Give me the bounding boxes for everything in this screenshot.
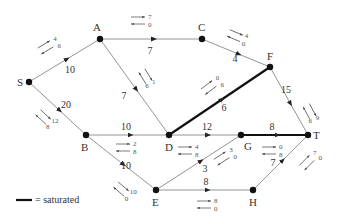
backward-arrow-icon [114, 187, 125, 196]
legend-label: = saturated [35, 194, 79, 205]
edge-capacity: 12 [202, 121, 212, 132]
residual-forward: 7 [148, 13, 152, 21]
node-b: B [81, 132, 89, 153]
node-dot [238, 132, 244, 138]
node-label: F [267, 50, 273, 62]
residual-forward: 8 [214, 197, 218, 205]
node-label: S [17, 76, 23, 88]
residual-annotation: 30 [212, 144, 241, 171]
residual-backward: 8 [195, 151, 199, 159]
edge-capacity: 10 [121, 160, 131, 171]
residual-forward: 2 [133, 140, 137, 148]
backward-arrow-icon [227, 36, 240, 41]
node-s: S [17, 76, 32, 88]
node-label: H [249, 196, 257, 208]
edge-e-h: 8 [156, 176, 253, 190]
forward-arrow-icon [40, 110, 50, 120]
backward-arrow-icon [205, 86, 216, 94]
edge-capacity: 15 [281, 84, 291, 95]
edge-line [169, 67, 270, 135]
node-dot [250, 187, 256, 193]
node-dot [153, 187, 159, 193]
residual-backward: 0 [125, 195, 129, 203]
residual-backward: 0 [319, 154, 323, 162]
edge-line [29, 39, 100, 82]
edge-s-a: 10 [29, 39, 100, 82]
edge-capacity: 8 [270, 121, 275, 132]
edge-a-d: 7 [100, 39, 169, 135]
edge-s-b: 20 [29, 82, 86, 135]
edge-f-t: 15 [270, 67, 308, 135]
edge-line [29, 82, 86, 135]
node-dot [267, 64, 273, 70]
node-label: A [93, 21, 101, 33]
residual-forward: 9 [316, 114, 320, 122]
residual-backward: 6 [57, 42, 61, 50]
residual-forward: 0 [279, 143, 283, 151]
node-c: C [198, 21, 205, 42]
residual-forward: 7 [313, 149, 317, 157]
edge-line [270, 67, 308, 135]
backward-arrow-icon [36, 115, 46, 125]
backward-arrow-icon [304, 160, 314, 170]
backward-arrow-icon [218, 158, 230, 166]
edge-capacity: 20 [61, 99, 71, 110]
forward-arrow-icon [214, 152, 226, 160]
flow-network-diagram: 10747201010615123887 4670401612828100069… [0, 0, 338, 221]
forward-arrow-icon [118, 182, 129, 191]
node-e: E [152, 187, 159, 208]
edge-a-c: 7 [100, 39, 202, 56]
edge-capacity: 4 [233, 53, 238, 64]
legend: = saturated [16, 194, 79, 205]
forward-arrow-icon [230, 30, 243, 35]
residual-annotation: 06 [199, 72, 228, 100]
node-dot [305, 132, 311, 138]
edge-b-e: 10 [86, 135, 156, 190]
node-label: T [313, 129, 320, 141]
residual-backward: 8 [133, 148, 137, 156]
residual-backward: 6 [145, 82, 149, 90]
residual-annotation: 48 [178, 143, 199, 159]
residual-annotation: 80 [197, 197, 218, 213]
nodes-layer: SACFBDGTEH [17, 21, 320, 208]
residual-backward: 0 [242, 40, 246, 48]
edge-capacity: 6 [222, 102, 227, 113]
backward-arrow-icon [41, 47, 53, 54]
residual-backward: 6 [221, 81, 225, 89]
node-label: C [198, 21, 205, 33]
edge-d-f: 6 [169, 67, 270, 135]
edge-c-f: 4 [202, 39, 270, 67]
node-dot [166, 132, 172, 138]
residual-forward: 4 [245, 32, 249, 40]
residual-forward: 12 [52, 117, 60, 125]
residual-forward: 10 [130, 188, 138, 196]
residual-layer: 467040161282810006964830088070 [33, 13, 327, 213]
residual-backward: 0 [234, 153, 238, 161]
node-label: B [81, 141, 88, 153]
residual-backward: 0 [148, 21, 152, 29]
node-dot [199, 36, 205, 42]
edge-capacity: 3 [203, 163, 208, 174]
forward-arrow-icon [145, 69, 152, 81]
residual-annotation: 28 [116, 140, 137, 156]
node-dot [97, 36, 103, 42]
edge-g-t: 8 [241, 121, 308, 135]
residual-backward: 8 [46, 123, 50, 131]
node-dot [26, 79, 32, 85]
residual-annotation: 96 [300, 102, 323, 127]
residual-backward: 6 [309, 117, 313, 125]
forward-arrow-icon [38, 41, 50, 48]
node-t: T [305, 129, 320, 141]
residual-forward: 1 [152, 78, 156, 86]
residual-forward: 4 [195, 143, 199, 151]
residual-backward: 8 [279, 151, 283, 159]
edge-capacity: 7 [148, 45, 153, 56]
residual-annotation: 128 [33, 104, 63, 134]
residual-annotation: 40 [225, 25, 251, 49]
forward-arrow-icon [300, 155, 310, 165]
edge-line [100, 39, 169, 135]
residual-annotation: 16 [135, 66, 159, 92]
node-label: E [152, 196, 159, 208]
residual-annotation: 70 [131, 13, 152, 29]
node-d: D [165, 132, 173, 153]
